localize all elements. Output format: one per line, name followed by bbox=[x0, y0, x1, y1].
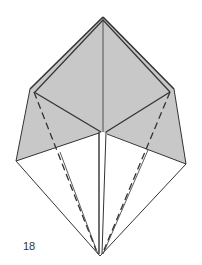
origami-diagram bbox=[0, 0, 202, 265]
step-number: 18 bbox=[23, 240, 35, 252]
